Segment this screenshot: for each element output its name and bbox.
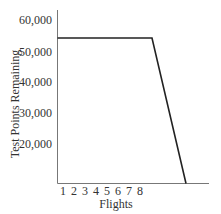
x-tick-label: 8 — [137, 184, 143, 198]
y-tick-label: 60,000 — [19, 13, 52, 27]
x-tick-label: 7 — [126, 184, 132, 198]
x-tick-label: 1 — [60, 184, 66, 198]
y-tick-labels: 60,000 50,000 40,000 30,000 20,000 — [19, 13, 52, 151]
x-axis-label: Flights — [99, 197, 133, 211]
x-tick-label: 6 — [115, 184, 121, 198]
y-tick-label: 20,000 — [19, 137, 52, 151]
x-tick-label: 3 — [82, 184, 88, 198]
y-tick-label: 30,000 — [19, 106, 52, 120]
x-tick-label: 5 — [104, 184, 110, 198]
y-tick-label: 40,000 — [19, 75, 52, 89]
y-tick-label: 50,000 — [19, 45, 52, 59]
x-tick-label: 4 — [93, 184, 99, 198]
x-tick-labels: 1 2 3 4 5 6 7 8 — [60, 184, 143, 198]
x-tick-label: 2 — [71, 184, 77, 198]
chart: 60,000 50,000 40,000 30,000 20,000 1 2 3… — [0, 0, 221, 214]
y-axis-label: Test Points Remaining — [8, 50, 22, 159]
data-line — [58, 38, 187, 184]
